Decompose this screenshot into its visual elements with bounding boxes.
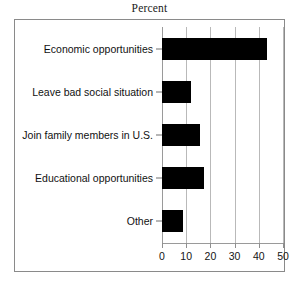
gridline-50	[283, 27, 284, 243]
x-tick-40	[259, 243, 260, 248]
bar	[162, 124, 200, 146]
bar-chart-figure: Percent 01020304050Economic opportunitie…	[0, 0, 299, 283]
bar	[162, 167, 204, 189]
category-label: Other	[127, 215, 162, 227]
x-axis-line	[162, 243, 283, 244]
category-label: Educational opportunities	[35, 172, 162, 184]
x-tick-10	[186, 243, 187, 248]
bar	[162, 81, 191, 103]
x-tick-20	[210, 243, 211, 248]
category-label: Leave bad social situation	[32, 86, 162, 98]
x-tick-0	[162, 243, 163, 248]
chart-title: Percent	[0, 2, 299, 14]
category-label: Join family members in U.S.	[22, 129, 162, 141]
category-label: Economic opportunities	[44, 43, 162, 55]
x-tick-50	[283, 243, 284, 248]
plot-frame: 01020304050Economic opportunitiesLeave b…	[14, 19, 285, 272]
bar	[162, 210, 183, 232]
x-tick-label-50: 50	[268, 250, 298, 262]
bar	[162, 38, 267, 60]
x-tick-30	[235, 243, 236, 248]
